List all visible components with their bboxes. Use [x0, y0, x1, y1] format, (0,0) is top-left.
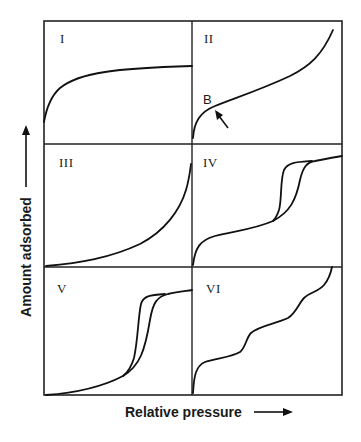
y-axis: Amount adsorbed [18, 125, 34, 317]
x-axis-label: Relative pressure [125, 404, 242, 420]
isotherm-curve-ii [193, 30, 333, 138]
point-b-arrow-shaft [219, 116, 228, 128]
isotherm-curve-iii [46, 164, 191, 266]
isotherm-adsorption-branch-iv [193, 156, 342, 265]
x-axis-arrow-right-icon [283, 408, 293, 416]
y-axis-label: Amount adsorbed [18, 197, 34, 317]
point-b-label: B [203, 92, 212, 107]
panel-ii: II B [193, 30, 333, 138]
isotherm-desorption-branch-iv [273, 161, 312, 221]
x-axis: Relative pressure [125, 404, 293, 420]
isotherm-desorption-branch-v [123, 294, 165, 376]
isotherm-curve-i [44, 66, 192, 122]
panel-iii: III [46, 155, 191, 266]
panel-label-iv: IV [203, 155, 218, 170]
panel-label-ii: II [204, 31, 214, 46]
isotherm-adsorption-branch-v [46, 290, 192, 395]
adsorption-isotherms-figure: I II B III IV V VI Amount adsorbed Rel [0, 0, 361, 442]
y-axis-arrow-up-icon [22, 125, 30, 135]
figure-frame [44, 21, 342, 395]
panel-v: V [46, 281, 192, 395]
panel-label-i: I [60, 31, 65, 46]
panel-label-v: V [57, 281, 67, 296]
panel-i: I [44, 31, 192, 122]
panel-vi: VI [193, 267, 332, 393]
panel-iv: IV [193, 155, 342, 265]
panel-label-iii: III [59, 155, 74, 170]
panel-label-vi: VI [206, 281, 221, 296]
